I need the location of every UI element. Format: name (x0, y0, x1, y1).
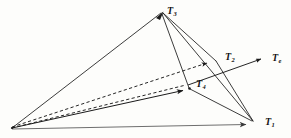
vector-t1-group (12, 125, 246, 130)
label-t3-sub: 3 (173, 10, 176, 17)
vector-te-dashed-shaft (12, 85, 186, 128)
diagram-canvas (0, 0, 291, 138)
vector-t2-shaft (12, 63, 207, 127)
label-t3: T3 (167, 6, 176, 16)
vector-t2-group (12, 63, 207, 127)
label-t1-sub: 1 (271, 121, 274, 128)
vector-diagram-figure: T3 T2 Te T4 T1 (0, 0, 291, 138)
tetrahedron-edges (12, 13, 253, 128)
t4-vertex (188, 87, 191, 90)
vector-t4-shaft (12, 91, 183, 129)
vector-t4-group (12, 91, 183, 129)
label-t1: T1 (265, 117, 274, 127)
edge-origin-t3 (12, 13, 161, 128)
label-t4: T4 (196, 79, 205, 89)
label-t2-sub: 2 (231, 56, 234, 63)
edge-t3-t2 (163, 13, 216, 61)
vector-t1-shaft (12, 125, 246, 130)
label-te-sub: e (278, 57, 281, 64)
origin-vertex (11, 127, 13, 129)
label-te: Te (272, 53, 281, 63)
edge-t3-t4 (162, 14, 189, 88)
vector-te-group (12, 59, 261, 128)
label-t4-sub: 4 (202, 83, 205, 90)
label-t2: T2 (225, 52, 234, 62)
